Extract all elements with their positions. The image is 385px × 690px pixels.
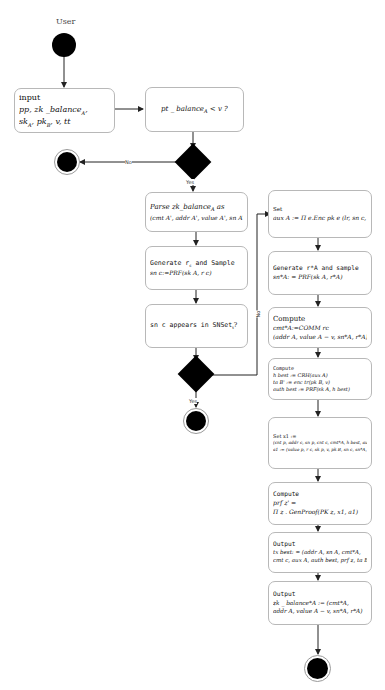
input-line1: pp, zk _balanceA, <box>19 104 110 117</box>
end-node-rejected <box>54 149 80 175</box>
compute-h-line1: h best := CRH(aux A) <box>273 372 367 379</box>
input-box: input pp, zk _balanceA, skA, pkB, v, tt <box>14 88 115 133</box>
compute-cmt-line2: (addr A, value A − v, sn*A, r*A) <box>273 333 367 342</box>
generate-rstar-box: Generate r*A and sample sn*A: = PRF(sk A… <box>268 251 372 295</box>
set-aux-box: Set aux A := Π e.Enc pk e (lr, sn c, r, … <box>268 190 372 238</box>
edge-diamond2-setaux-no <box>211 214 270 375</box>
compute-h-line2: ta B' := enc tr(pk B, v) <box>273 379 367 386</box>
parse-line2: (cmt A', addr A', value A', sn A', r A') <box>150 214 243 223</box>
end-node-double-spend <box>183 408 209 434</box>
balance-check-box: pt _ balanceA < v ? <box>145 87 244 132</box>
compute-h-line3: auth best := PRF(sk A, h best) <box>273 386 367 393</box>
generate-r-line2: sn c:=PRF(sk A, r c) <box>150 269 243 278</box>
output-tx-heading: Output <box>273 540 367 549</box>
start-node <box>52 33 76 57</box>
sn-yes-label: Yes <box>189 398 197 404</box>
generate-rstar-line2: sn*A: = PRF(sk A, r*A) <box>273 273 367 282</box>
sn-no-label: No <box>255 311 261 318</box>
compute-h-heading: Compute <box>273 365 367 372</box>
set-x-line1: (cnt p, addr c, sn p, cnt c, cmt*A, h be… <box>273 440 367 447</box>
set-x-line2: a1 := (value p, r c, sk p, v, pk B, sn c… <box>273 447 367 454</box>
balance-no-label: No <box>125 159 132 165</box>
compute-cmt-box: Compute cmt*A:=COMM rc (addr A, value A … <box>268 307 372 348</box>
compute-cmt-line1: cmt*A:=COMM rc <box>273 324 367 333</box>
compute-cmt-heading: Compute <box>273 314 367 325</box>
parse-box: Parse zk_balanceA as (cmt A', addr A', v… <box>145 192 248 232</box>
output-balance-heading: Output <box>273 590 367 599</box>
set-x-box: Set x1 := (cnt p, addr c, sn p, cnt c, c… <box>268 417 372 469</box>
compute-prf-line1: prf z' = <box>273 499 367 508</box>
sn-check-box: sn c appears in SNSett? <box>145 304 248 348</box>
input-line2: skA, pkB, v, tt <box>19 116 110 129</box>
swimlane-label: User <box>56 17 75 26</box>
balance-check-text: pt _ balanceA < v ? <box>161 104 228 116</box>
output-balance-box: Output zk _ balance*A := (cmt*A, addr A,… <box>268 581 372 625</box>
output-tx-box: Output tx best: = (addr A, sn A, cmt*A, … <box>268 532 372 573</box>
input-heading: input <box>19 92 110 104</box>
parse-line1: Parse zk_balanceA as <box>150 202 243 214</box>
end-node-success <box>304 655 331 682</box>
balance-yes-label: Yes <box>186 179 194 185</box>
output-balance-line2: addr A, value A − v, sn*A, r*A) <box>273 607 367 615</box>
set-x-heading: Set x1 := <box>273 432 367 440</box>
compute-prf-box: Compute prf z' = Π z . GenProof(PK z, x1… <box>268 482 372 525</box>
output-tx-line2: cmt c, aux A, auth best, prf z, ta B) <box>273 557 367 565</box>
output-tx-line1: tx best: = (addr A, sn A, cmt*A, <box>273 549 367 557</box>
compute-h-box: Compute h best := CRH(aux A) ta B' := en… <box>268 358 372 400</box>
generate-rstar-line1: Generate r*A and sample <box>273 264 367 273</box>
set-aux-heading: Set <box>273 206 367 214</box>
compute-prf-line2: Π z . GenProof(PK z, x1, a1) <box>273 508 367 517</box>
output-balance-line1: zk _ balance*A := (cmt*A, <box>273 599 367 607</box>
sn-check-text: sn c appears in SNSett? <box>150 321 243 331</box>
compute-prf-heading: Compute <box>273 490 367 499</box>
generate-r-line1: Generate rc and Sample <box>150 259 243 269</box>
set-aux-line1: aux A := Π e.Enc pk e (lr, sn c, r, sn A… <box>273 214 367 223</box>
generate-r-box: Generate rc and Sample sn c:=PRF(sk A, r… <box>145 246 248 290</box>
